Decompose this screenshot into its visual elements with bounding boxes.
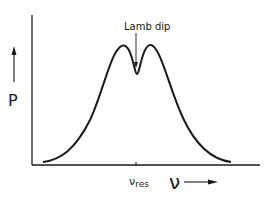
x-axis-label: ν bbox=[169, 170, 180, 194]
resonance-sub: res bbox=[135, 179, 149, 189]
y-arrow-icon bbox=[12, 46, 17, 55]
y-axis-label: P bbox=[8, 91, 18, 110]
lamb-dip-diagram: Lamb dip P ν νres bbox=[0, 0, 271, 199]
lamb-dip-label: Lamb dip bbox=[124, 21, 170, 32]
x-arrow-icon bbox=[208, 180, 218, 185]
resonance-label: νres bbox=[129, 175, 149, 189]
